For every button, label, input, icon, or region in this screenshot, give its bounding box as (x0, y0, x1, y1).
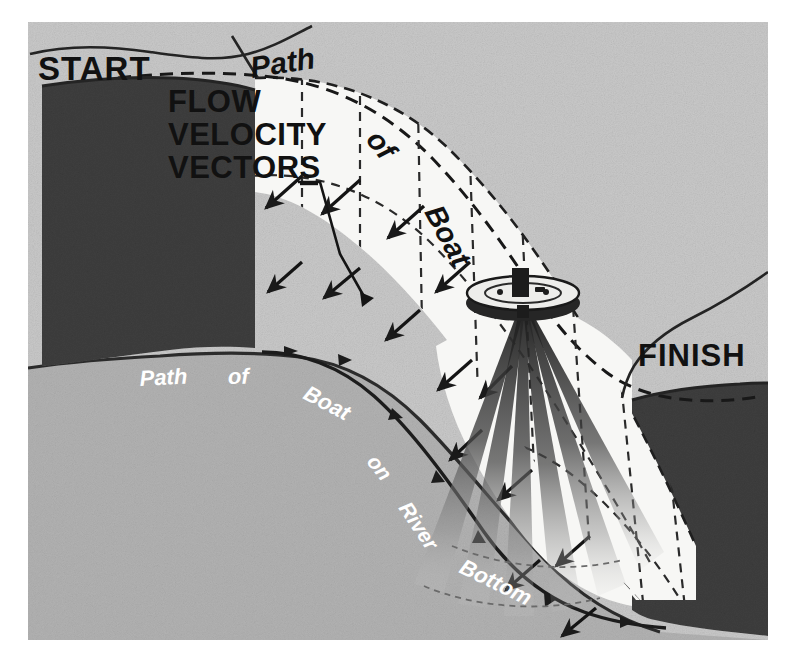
start-label: START (38, 50, 151, 87)
finish-label: FINISH (638, 338, 746, 373)
flow-label-line3: VECTORS (168, 150, 321, 185)
diagram-canvas: START FINISH FLOW VELOCITY VECTORS Path … (0, 0, 796, 659)
bottom-path-word-of: of (228, 364, 252, 389)
flow-label-line1: FLOW (168, 84, 261, 119)
bottom-path-word-path: Path (139, 364, 188, 391)
adcp-river-diagram: START FINISH FLOW VELOCITY VECTORS Path … (0, 0, 796, 659)
flow-label-line2: VELOCITY (168, 117, 327, 152)
